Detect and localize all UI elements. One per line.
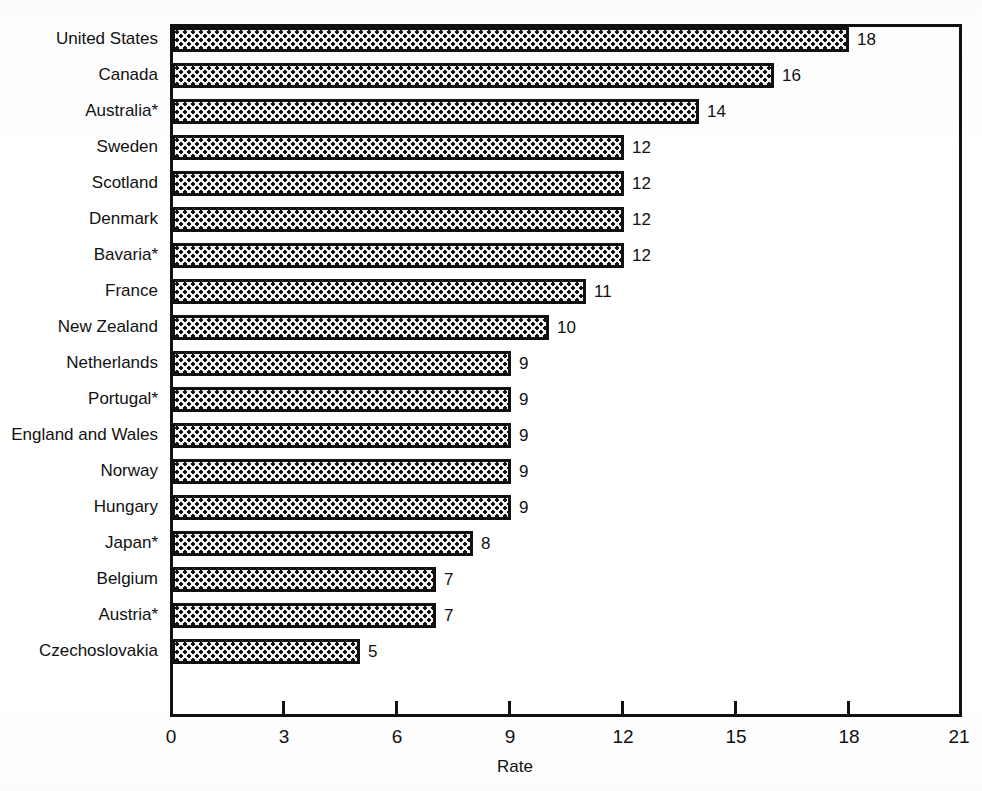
bar-row: Austria* 7 [0, 600, 982, 636]
category-label: Portugal* [0, 388, 158, 410]
bar-value-label: 9 [519, 387, 528, 412]
bar[interactable] [172, 495, 511, 520]
x-tick-label: 6 [392, 726, 403, 748]
bar[interactable] [172, 387, 511, 412]
bar[interactable] [172, 63, 774, 88]
bar-value-label: 12 [632, 135, 651, 160]
bar-row: New Zealand 10 [0, 312, 982, 348]
bar-row: France 11 [0, 276, 982, 312]
x-axis-line [170, 714, 962, 717]
bar-container [172, 171, 624, 196]
bar-container [172, 135, 624, 160]
bar-value-label: 9 [519, 459, 528, 484]
category-label: New Zealand [0, 316, 158, 338]
bar-container [172, 567, 436, 592]
bar-container [172, 279, 586, 304]
category-label: Czechoslovakia [0, 640, 158, 662]
bar[interactable] [172, 603, 436, 628]
bar-row: Czechoslovakia 5 [0, 636, 982, 672]
x-tick-label: 9 [505, 726, 516, 748]
x-tick [282, 701, 285, 717]
bar[interactable] [172, 351, 511, 376]
category-label: Scotland [0, 172, 158, 194]
category-label: United States [0, 28, 158, 50]
category-label: Canada [0, 64, 158, 86]
bar[interactable] [172, 207, 624, 232]
bar-row: Belgium 7 [0, 564, 982, 600]
x-axis-title: Rate [0, 757, 982, 777]
bar-value-label: 12 [632, 207, 651, 232]
bar-value-label: 9 [519, 423, 528, 448]
bar-container [172, 27, 849, 52]
x-tick [621, 701, 624, 717]
bar[interactable] [172, 135, 624, 160]
bar-row: Denmark 12 [0, 204, 982, 240]
bar[interactable] [172, 171, 624, 196]
axis-right-cap [959, 699, 962, 717]
bar-value-label: 10 [557, 315, 576, 340]
bar[interactable] [172, 243, 624, 268]
x-tick-label: 12 [612, 726, 633, 748]
bar-container [172, 243, 624, 268]
category-label: Sweden [0, 136, 158, 158]
category-label: France [0, 280, 158, 302]
bar-value-label: 7 [444, 567, 453, 592]
category-label: Bavaria* [0, 244, 158, 266]
category-label: Norway [0, 460, 158, 482]
bar-row: England and Wales 9 [0, 420, 982, 456]
bar-row: Bavaria* 12 [0, 240, 982, 276]
x-tick [508, 701, 511, 717]
x-tick-label: 15 [725, 726, 746, 748]
bar-container [172, 387, 511, 412]
x-tick-label: 21 [948, 726, 969, 748]
bar-value-label: 12 [632, 243, 651, 268]
category-label: Austria* [0, 604, 158, 626]
bar[interactable] [172, 99, 699, 124]
bar-container [172, 495, 511, 520]
bar-value-label: 5 [368, 639, 377, 664]
bar-row: Scotland 12 [0, 168, 982, 204]
bar-container [172, 315, 549, 340]
bar-row: Netherlands 9 [0, 348, 982, 384]
bar[interactable] [172, 639, 360, 664]
category-label: Denmark [0, 208, 158, 230]
bar-row: Norway 9 [0, 456, 982, 492]
bar-value-label: 11 [594, 279, 612, 304]
bar-row: Sweden 12 [0, 132, 982, 168]
bar-row: United States 18 [0, 24, 982, 60]
bar-row: Canada 16 [0, 60, 982, 96]
x-tick [395, 701, 398, 717]
bar[interactable] [172, 531, 473, 556]
bar-container [172, 351, 511, 376]
bar-container [172, 639, 360, 664]
category-label: Japan* [0, 532, 158, 554]
category-label: Netherlands [0, 352, 158, 374]
bar-row: Japan* 8 [0, 528, 982, 564]
bar-value-label: 9 [519, 351, 528, 376]
bar-container [172, 99, 699, 124]
category-label: Belgium [0, 568, 158, 590]
bar-row: Portugal* 9 [0, 384, 982, 420]
bar[interactable] [172, 279, 586, 304]
bar-value-label: 16 [782, 63, 801, 88]
bar[interactable] [172, 423, 511, 448]
category-label: Hungary [0, 496, 158, 518]
x-tick-label: 18 [838, 726, 859, 748]
bar-container [172, 207, 624, 232]
bar[interactable] [172, 315, 549, 340]
x-axis-title-text: Rate [497, 757, 533, 776]
bar-container [172, 63, 774, 88]
bar-value-label: 7 [444, 603, 453, 628]
bar[interactable] [172, 567, 436, 592]
bar[interactable] [172, 459, 511, 484]
chart-page: United States 18 Canada 16 Australia* 14… [0, 0, 982, 791]
x-tick-label: 3 [279, 726, 290, 748]
bar-row: Australia* 14 [0, 96, 982, 132]
bar-value-label: 8 [481, 531, 490, 556]
bar-container [172, 531, 473, 556]
bar-value-label: 14 [707, 99, 726, 124]
bar[interactable] [172, 27, 849, 52]
bar-row: Hungary 9 [0, 492, 982, 528]
x-tick-label: 0 [166, 726, 177, 748]
bar-value-label: 12 [632, 171, 651, 196]
